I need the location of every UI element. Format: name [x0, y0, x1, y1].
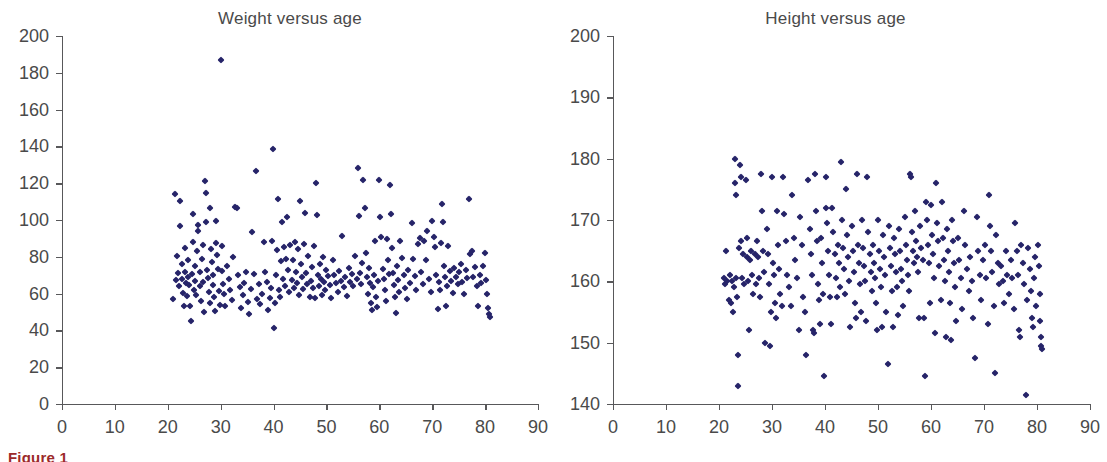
data-point [326, 282, 333, 289]
data-point [808, 272, 815, 279]
data-point [426, 275, 433, 282]
data-point [336, 267, 343, 274]
data-point [241, 279, 248, 286]
y-tick-1 [607, 159, 613, 160]
data-point [180, 289, 187, 296]
data-point [362, 250, 369, 257]
data-point [785, 284, 792, 291]
data-point [460, 290, 467, 297]
data-point [1007, 256, 1014, 263]
data-point [782, 238, 789, 245]
data-point [290, 285, 297, 292]
data-point [291, 239, 298, 246]
data-point [1002, 247, 1009, 254]
data-point [468, 248, 475, 255]
y-tick-0 [56, 73, 62, 74]
y-tick-label-0: 40 [0, 321, 49, 339]
x-tick-label-1: 30 [762, 418, 782, 436]
data-point [365, 264, 372, 271]
y-tick-1 [607, 220, 613, 221]
data-point [184, 273, 191, 280]
data-point [384, 257, 391, 264]
data-point [284, 214, 291, 221]
data-point [815, 281, 822, 288]
y-tick-0 [56, 367, 62, 368]
data-point [359, 260, 366, 267]
data-point [829, 204, 836, 211]
x-tick-label-1: 10 [656, 418, 676, 436]
data-point [266, 295, 273, 302]
data-point [739, 275, 746, 282]
data-point [987, 223, 994, 230]
data-point [890, 235, 897, 242]
data-point [300, 285, 307, 292]
data-point [293, 279, 300, 286]
x-tick-0 [274, 404, 275, 410]
data-point [879, 324, 886, 331]
data-point [191, 262, 198, 269]
x-tick-1 [719, 404, 720, 410]
data-point [809, 327, 816, 334]
data-point [340, 284, 347, 291]
data-point [321, 278, 328, 285]
data-point [218, 242, 225, 249]
data-point [216, 301, 223, 308]
data-point [728, 278, 735, 285]
data-point [216, 287, 223, 294]
data-point [334, 288, 341, 295]
data-point [915, 269, 922, 276]
data-point [484, 305, 491, 312]
data-point [208, 259, 215, 266]
data-point [385, 271, 392, 278]
data-point [377, 214, 384, 221]
data-point [198, 255, 205, 262]
data-point [856, 281, 863, 288]
y-tick-0 [56, 183, 62, 184]
data-point [849, 247, 856, 254]
data-point [473, 283, 480, 290]
data-point [842, 290, 849, 297]
data-point [381, 286, 388, 293]
data-point [776, 266, 783, 273]
data-point [306, 294, 313, 301]
data-point [207, 204, 214, 211]
data-point [832, 275, 839, 282]
data-point [822, 174, 829, 181]
data-point [192, 277, 199, 284]
data-point [963, 266, 970, 273]
data-point [738, 238, 745, 245]
y-tick-0 [56, 330, 62, 331]
data-point [737, 174, 744, 181]
y-tick-label-0: 20 [0, 358, 49, 376]
data-point [446, 267, 453, 274]
data-point [410, 255, 417, 262]
data-point [183, 279, 190, 286]
data-point [263, 278, 270, 285]
data-point [772, 299, 779, 306]
data-point [395, 276, 402, 283]
data-point [812, 207, 819, 214]
data-point [329, 257, 336, 264]
data-point [283, 255, 290, 262]
y-tick-1 [607, 36, 613, 37]
data-point [454, 281, 461, 288]
data-point [732, 180, 739, 187]
data-point [369, 284, 376, 291]
data-point [847, 324, 854, 331]
data-point [287, 241, 294, 248]
data-point [1029, 315, 1036, 322]
data-point [193, 248, 200, 255]
data-point [825, 247, 832, 254]
x-tick-label-1: 60 [921, 418, 941, 436]
data-point [807, 250, 814, 257]
data-point [761, 269, 768, 276]
data-point [416, 235, 423, 242]
data-point [483, 290, 490, 297]
data-point [337, 277, 344, 284]
data-point [437, 239, 444, 246]
data-point [462, 266, 469, 273]
data-point [996, 281, 1003, 288]
data-point [363, 273, 370, 280]
data-point [364, 290, 371, 297]
data-point [725, 296, 732, 303]
